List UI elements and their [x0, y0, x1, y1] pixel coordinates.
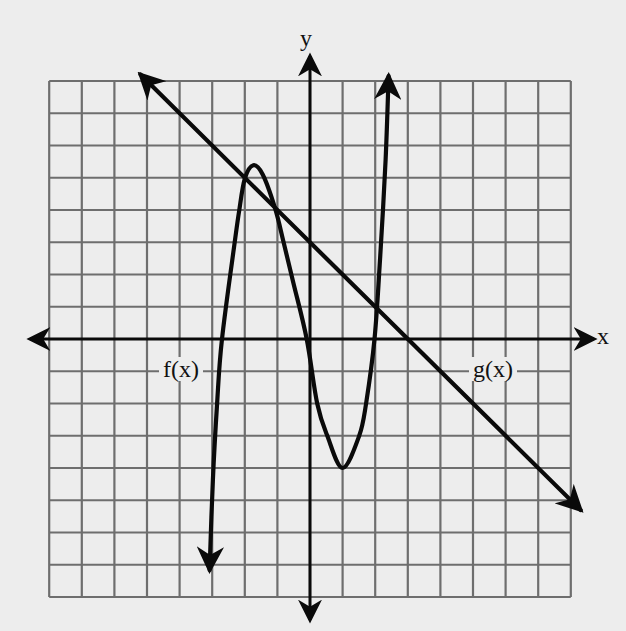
coordinate-plane — [0, 0, 626, 631]
g-label: g(x) — [469, 357, 517, 381]
x-axis-label: x — [597, 324, 609, 348]
f-label: f(x) — [159, 357, 203, 381]
curve-f — [210, 76, 389, 570]
graph-figure: y x f(x) g(x) — [0, 0, 626, 631]
y-axis-label: y — [300, 26, 312, 50]
line-g — [141, 75, 581, 510]
